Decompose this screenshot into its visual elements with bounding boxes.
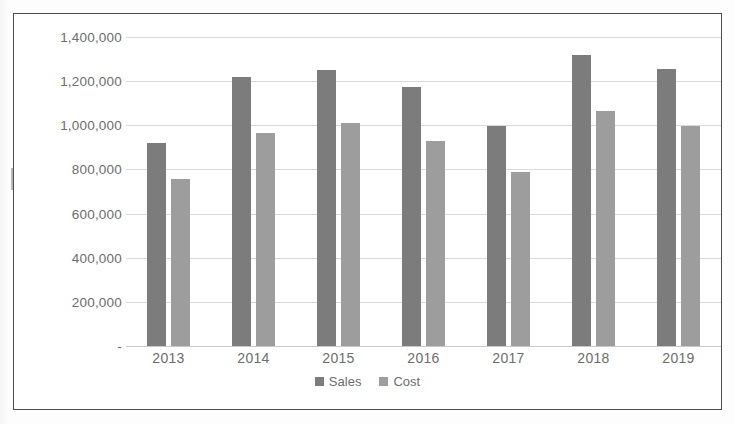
bar-sales-2014[interactable] — [232, 77, 251, 346]
gridline — [126, 302, 721, 303]
y-axis-tick-label: 200,000 — [26, 294, 122, 309]
y-axis-labels: 1,400,0001,200,0001,000,000800,000600,00… — [22, 37, 122, 346]
legend-item-sales[interactable]: Sales — [315, 375, 362, 388]
scan-edge-artifact — [0, 0, 10, 424]
bar-sales-2016[interactable] — [402, 87, 421, 346]
chart-legend: SalesCost — [14, 375, 721, 388]
x-axis-tick-label-2017: 2017 — [464, 350, 554, 366]
bar-sales-2019[interactable] — [657, 69, 676, 346]
x-axis-tick-label-2016: 2016 — [379, 350, 469, 366]
sales-legend-swatch — [315, 377, 324, 386]
legend-label: Sales — [329, 375, 362, 388]
chart-frame-border: 1,400,0001,200,0001,000,000800,000600,00… — [13, 13, 722, 410]
y-axis-tick-label: 1,200,000 — [26, 74, 122, 89]
legend-item-cost[interactable]: Cost — [379, 375, 420, 388]
gridline — [126, 214, 721, 215]
bar-cost-2016[interactable] — [426, 141, 445, 346]
x-axis-tick-label-2014: 2014 — [209, 350, 299, 366]
bar-cost-2014[interactable] — [256, 133, 275, 346]
bar-sales-2015[interactable] — [317, 70, 336, 346]
chart-screenshot: 1,400,0001,200,0001,000,000800,000600,00… — [0, 0, 734, 424]
gridline — [126, 125, 721, 126]
x-axis-tick-label-2019: 2019 — [634, 350, 724, 366]
bar-cost-2018[interactable] — [596, 111, 615, 346]
gridline — [126, 37, 721, 38]
bar-sales-2017[interactable] — [487, 126, 506, 346]
bar-sales-2013[interactable] — [147, 143, 166, 346]
gridline — [126, 81, 721, 82]
x-axis-tick-label-2013: 2013 — [124, 350, 214, 366]
legend-label: Cost — [393, 375, 420, 388]
bar-cost-2015[interactable] — [341, 123, 360, 346]
axis-baseline — [126, 346, 721, 347]
y-axis-tick-label: 400,000 — [26, 250, 122, 265]
y-axis-tick-label: 1,000,000 — [26, 118, 122, 133]
x-axis-labels: 2013201420152016201720182019 — [126, 350, 721, 374]
gridline — [126, 169, 721, 170]
x-axis-tick-label-2018: 2018 — [549, 350, 639, 366]
x-axis-tick-label-2015: 2015 — [294, 350, 384, 366]
y-axis-tick-label: 600,000 — [26, 206, 122, 221]
y-axis-tick-label: - — [26, 339, 122, 354]
y-axis-tick-label: 800,000 — [26, 162, 122, 177]
column-chart[interactable]: 1,400,0001,200,0001,000,000800,000600,00… — [14, 14, 721, 409]
y-axis-tick-label: 1,400,000 — [26, 30, 122, 45]
bar-cost-2017[interactable] — [511, 172, 530, 346]
bar-sales-2018[interactable] — [572, 55, 591, 346]
bar-cost-2013[interactable] — [171, 179, 190, 346]
bar-cost-2019[interactable] — [681, 126, 700, 346]
plot-area — [126, 37, 721, 346]
gridline — [126, 258, 721, 259]
cost-legend-swatch — [379, 377, 388, 386]
